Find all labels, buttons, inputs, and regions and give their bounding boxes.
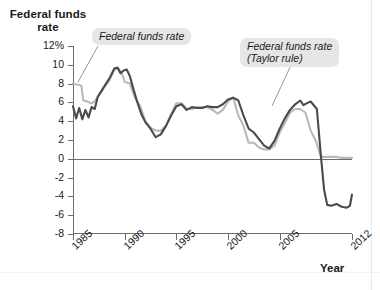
annotation-taylor-rule: Federal funds rate (Taylor rule) [240, 38, 339, 67]
annotation-federal-funds-rate: Federal funds rate [92, 28, 191, 45]
chart-figure: Federal funds rate 12%1086420-2-4-6-8 19… [0, 0, 380, 290]
